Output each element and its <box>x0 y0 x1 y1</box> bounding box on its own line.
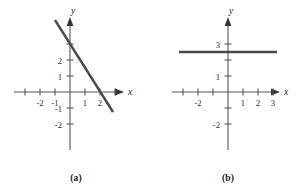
panel-caption-a: (a) <box>0 173 152 183</box>
y-tick-label-a-3: -2 <box>55 120 62 130</box>
x-tick-label-a-2: 1 <box>83 98 87 108</box>
x-tick-label-b-1: 1 <box>241 98 245 108</box>
y-axis-b <box>225 17 232 150</box>
figure-panel-b: -2 1 2 3 3 1 -2 x y (b) <box>152 0 304 185</box>
y-axis-label-b: y <box>228 6 234 16</box>
y-tick-label-a-0: 2 <box>58 56 62 66</box>
y-axis-label-a: y <box>70 6 76 16</box>
x-tick-label-b-3: 3 <box>271 98 275 108</box>
y-tick-label-b-1: 1 <box>216 72 220 82</box>
x-axis-label-b: x <box>283 87 289 97</box>
coordinate-plane-a: -2 -1 1 2 2 1 -1 -2 x y <box>0 0 152 185</box>
panel-caption-b: (b) <box>152 173 304 183</box>
coordinate-plane-b: -2 1 2 3 3 1 -2 x y <box>152 0 304 185</box>
x-tick-label-b-0: -2 <box>194 98 201 108</box>
y-tick-label-a-2: -1 <box>55 104 62 114</box>
y-tick-label-b-0: 3 <box>216 40 220 50</box>
x-axis-a <box>14 89 124 96</box>
y-axis-a <box>67 17 74 150</box>
x-tick-label-a-3: 2 <box>98 98 102 108</box>
y-tick-label-a-1: 1 <box>58 72 62 82</box>
figure-pair: -2 -1 1 2 2 1 -1 -2 x y (a) <box>0 0 305 185</box>
figure-panel-a: -2 -1 1 2 2 1 -1 -2 x y (a) <box>0 0 152 185</box>
x-tick-label-b-2: 2 <box>256 98 260 108</box>
x-axis-b <box>172 89 280 96</box>
x-axis-label-a: x <box>127 87 133 97</box>
x-tick-label-a-0: -2 <box>36 98 43 108</box>
y-tick-label-b-2: -2 <box>213 120 220 130</box>
